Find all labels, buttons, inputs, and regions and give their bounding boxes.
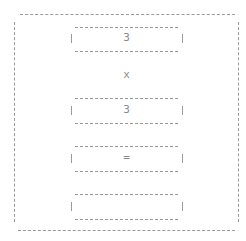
equals-border-right <box>182 154 183 163</box>
result-border-bottom <box>75 219 178 221</box>
operand-b-border-right <box>182 106 183 115</box>
equals-border-left <box>71 154 72 163</box>
equals-label[interactable]: = <box>75 152 178 164</box>
operand-b-border-left <box>71 106 72 115</box>
operand-a-border-left <box>71 34 72 43</box>
equals-border-bottom <box>75 171 178 173</box>
operand-a-value[interactable]: 3 <box>75 32 178 44</box>
outer-border-left <box>14 22 15 222</box>
operand-b-value[interactable]: 3 <box>75 104 178 116</box>
result-border-left <box>71 202 72 211</box>
operand-a-border-right <box>182 34 183 43</box>
operand-b-border-top <box>75 98 178 100</box>
operand-b-border-bottom <box>75 123 178 125</box>
operator-label: x <box>75 69 178 81</box>
result-border-top <box>75 194 178 196</box>
result-border-right <box>182 202 183 211</box>
outer-border-bottom <box>18 230 235 232</box>
outer-border-top <box>20 14 235 16</box>
operand-a-border-bottom <box>75 51 178 53</box>
equals-border-top <box>75 146 178 148</box>
outer-border-right <box>238 22 239 222</box>
operand-a-border-top <box>75 27 178 29</box>
